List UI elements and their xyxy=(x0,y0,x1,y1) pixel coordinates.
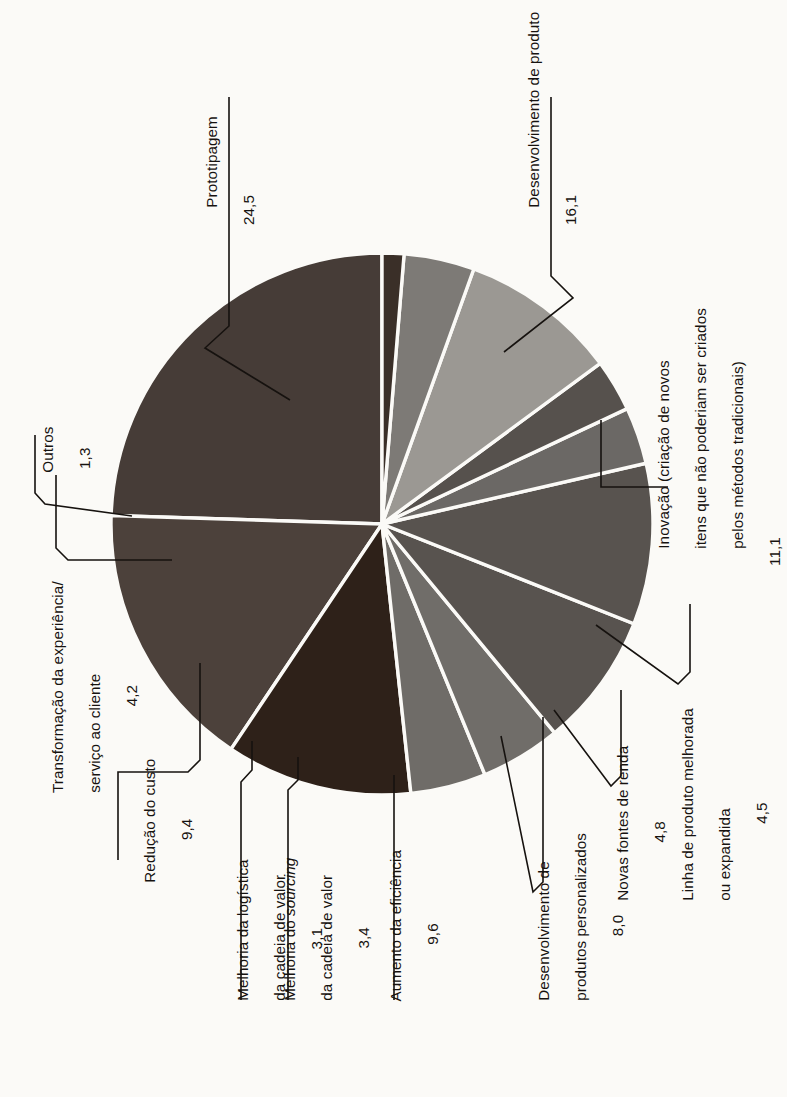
slice-label-line1: Melhoria da logística xyxy=(234,859,251,1000)
slice-value: 4,2 xyxy=(123,581,142,810)
slice-label-line3: pelos métodos tradicionais) xyxy=(729,361,746,549)
slice-label-melhoria-logistica: Melhoria da logística da cadeia de valor… xyxy=(215,859,363,1018)
slice-value: 11,1 xyxy=(766,308,785,566)
slice-label-prototipagem: Prototipagem 24,5 xyxy=(184,116,295,225)
slice-label-text: Desenvolvimento de produto xyxy=(525,12,542,208)
slice-value: 1,3 xyxy=(76,427,95,490)
slice-value: 8,0 xyxy=(609,833,628,1018)
slice-value: 24,5 xyxy=(240,116,259,225)
slice-label-line1: Desenvolvimento de xyxy=(535,861,552,1000)
slice-label-line1: Inovação (criação de novos xyxy=(655,360,672,548)
slice-label-line1: Transformação da experiência/ xyxy=(49,581,66,793)
slice-label-text: Prototipagem xyxy=(203,116,220,208)
slice-label-line2: ou expandida xyxy=(716,808,733,900)
slice-label-outros: Outros 1,3 xyxy=(20,427,131,490)
slice-value: 9,4 xyxy=(178,759,197,900)
slice-label-transformacao-experiencia: Transformação da experiência/ serviço ao… xyxy=(30,581,178,810)
slice-value: 16,1 xyxy=(562,12,581,225)
slice-label-line2: itens que não poderiam ser criados xyxy=(692,308,709,549)
slice-value: 9,6 xyxy=(424,850,443,1018)
slice-label-inovacao: Inovação (criação de novos itens que não… xyxy=(636,308,787,566)
pie-slice-prototipagem[interactable] xyxy=(111,253,382,524)
slice-label-produtos-personalizados: Desenvolvimento de produtos personalizad… xyxy=(516,833,664,1018)
slice-label-desenvolvimento-de-produto: Desenvolvimento de produto 16,1 xyxy=(506,12,617,225)
pie-slices-group xyxy=(111,253,653,795)
slice-label-text: Outros xyxy=(39,427,56,473)
slice-label-line2: produtos personalizados xyxy=(572,833,589,1001)
slice-label-line2: da cadeia de valor xyxy=(271,875,288,1001)
slice-value: 3,1 xyxy=(308,859,327,1018)
slice-value: 4,5 xyxy=(753,708,772,918)
slice-label-line2: serviço ao cliente xyxy=(86,674,103,793)
